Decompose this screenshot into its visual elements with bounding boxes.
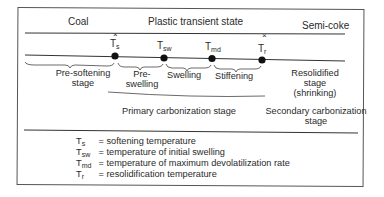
state-plastic: Plastic transient state (148, 16, 243, 27)
stage-stiffening: Stiffening (215, 71, 253, 81)
marker-tr: Tr (258, 43, 266, 55)
marker-tsw: Tsw (157, 40, 172, 52)
tr-dot (258, 56, 265, 63)
ts-dot (111, 52, 118, 59)
stage-pre-softening: Pre-softeningstage (48, 68, 118, 88)
tmd-dot (208, 55, 215, 62)
stage-swelling: Swelling (167, 70, 201, 80)
stage-pre-swelling: Pre-swelling (121, 69, 163, 89)
marker-ts: Ts (110, 38, 120, 50)
legend-ts: Ts = softening temperature (76, 136, 196, 147)
state-semicoke: Semi-coke (302, 20, 349, 31)
legend-tmd: Tmd = temperature of maximum devolatiliz… (76, 158, 290, 169)
legend-tr: Tr = resolidification temperature (76, 169, 217, 180)
stage-secondary: Secondary carbonizationstage (256, 106, 376, 126)
stage-primary: Primary carbonization stage (122, 106, 236, 116)
state-coal: Coal (68, 16, 89, 27)
legend-tsw: Tsw = temperature of initial swelling (76, 147, 225, 158)
svg-text:×: × (262, 31, 267, 40)
marker-tmd: Tmd (205, 41, 221, 53)
stage-resolidified: Resolidifiedstage(shrinking) (280, 68, 350, 98)
tsw-dot (160, 54, 167, 61)
